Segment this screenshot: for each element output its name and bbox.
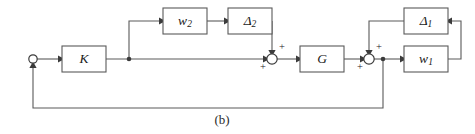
junction-sum-1	[267, 54, 277, 64]
junction-input-node	[29, 55, 37, 63]
sign-sum-2-1: +	[357, 61, 363, 72]
sign-sum-1-0: +	[279, 41, 285, 52]
block-d2: Δ2	[228, 8, 272, 34]
junction-sum-2	[364, 54, 374, 64]
diagram-canvas: Kw2Δ2GΔ1w1 ++++ (b)	[0, 0, 475, 134]
blocks-layer: Kw2Δ2GΔ1w1	[62, 8, 448, 72]
wire-d1-to-sum2	[369, 21, 404, 54]
figure-caption: (b)	[214, 112, 229, 127]
branch-point-tap-after-sum2	[381, 57, 386, 62]
branch-point-tap-after-K	[127, 57, 132, 62]
block-w1: w1	[404, 46, 448, 72]
wire-tap-up-to-w2	[129, 21, 163, 59]
block-label-K: K	[78, 51, 89, 66]
block-diagram-figure: Kw2Δ2GΔ1w1 ++++ (b)	[0, 0, 475, 134]
block-d1: Δ1	[404, 8, 448, 34]
sign-sum-2-0: +	[376, 41, 382, 52]
block-label-G: G	[317, 51, 327, 66]
block-G: G	[300, 46, 344, 72]
block-K: K	[62, 46, 106, 72]
block-w2: w2	[163, 8, 207, 34]
sign-sum-1-1: +	[260, 61, 266, 72]
wire-w1-to-d1	[448, 21, 461, 59]
